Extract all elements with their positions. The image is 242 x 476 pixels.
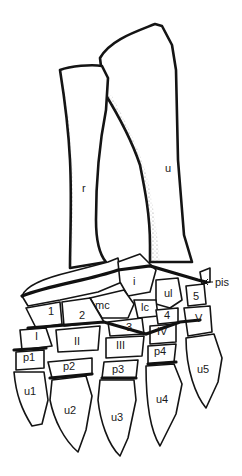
pisiform-pointer bbox=[0, 0, 242, 476]
